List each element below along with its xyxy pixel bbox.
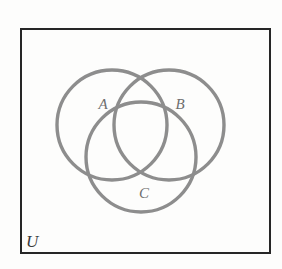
venn-diagram-canvas: A B C U	[0, 0, 282, 269]
set-label-b: B	[175, 96, 184, 112]
set-label-a: A	[97, 96, 108, 112]
set-label-c: C	[139, 185, 150, 201]
venn-diagram-figure: A B C U	[0, 0, 282, 269]
universe-label: U	[26, 232, 40, 251]
